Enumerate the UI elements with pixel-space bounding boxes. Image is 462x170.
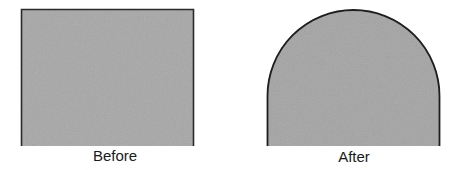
before-shape (21, 9, 194, 146)
diagram-canvas (0, 0, 462, 170)
after-label: After (294, 148, 414, 165)
before-label: Before (55, 147, 175, 164)
after-shape (267, 9, 440, 146)
